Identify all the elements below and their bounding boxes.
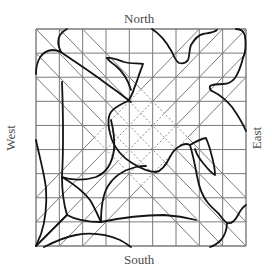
curve-north-east-coast xyxy=(152,29,217,63)
grid-line xyxy=(164,162,246,246)
curve-south-long xyxy=(101,215,196,222)
curve-west-ridge xyxy=(62,82,67,215)
curve-sw-branch xyxy=(36,215,67,246)
grid-line xyxy=(153,174,223,246)
grid-line xyxy=(36,53,106,125)
grid-line xyxy=(36,77,94,137)
curve-south-arch xyxy=(101,166,146,222)
grid-line xyxy=(176,150,246,222)
grid-map-diagram xyxy=(0,0,272,279)
grid-line xyxy=(36,138,94,198)
curve-east-coast xyxy=(210,29,246,131)
curve-central-basin xyxy=(108,101,190,172)
grid-line xyxy=(188,138,246,198)
grid-line xyxy=(36,29,118,113)
grid-line xyxy=(59,29,129,101)
curve-y-branch xyxy=(67,215,101,222)
grid-line xyxy=(188,77,246,137)
curve-top-left-loop xyxy=(36,29,67,74)
grid-line xyxy=(164,29,246,113)
grid-line xyxy=(83,29,141,89)
grid-line xyxy=(141,29,199,89)
